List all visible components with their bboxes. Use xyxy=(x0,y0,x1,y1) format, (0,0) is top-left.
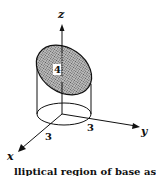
z-arrow-icon xyxy=(60,24,65,31)
y-arrow-icon xyxy=(132,123,140,129)
x-axis xyxy=(22,114,62,148)
z-axis-label: z xyxy=(57,8,65,21)
figure-caption: lliptical region of base as its xyxy=(14,166,156,176)
cylinder-diagram: z y x 4 3 3 xyxy=(0,0,156,176)
x-radius-label: 3 xyxy=(45,131,52,142)
height-label: 4 xyxy=(54,64,61,75)
x-axis-label: x xyxy=(6,150,14,163)
top-elliptical-region xyxy=(27,35,101,105)
y-radius-label: 3 xyxy=(87,122,94,133)
y-axis-label: y xyxy=(140,125,149,138)
